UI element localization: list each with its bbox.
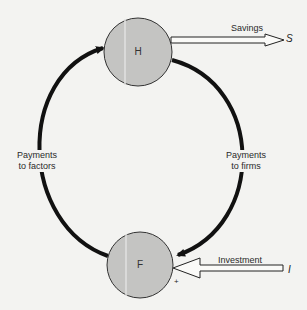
label-line: Payments xyxy=(12,150,62,161)
payments-to-factors-label: Payments to factors xyxy=(12,150,62,172)
savings-symbol: S xyxy=(286,33,293,44)
households-label: H xyxy=(128,46,148,57)
savings-arrow xyxy=(171,34,284,46)
label-line: to firms xyxy=(224,161,268,172)
injection-plus-sign: + xyxy=(174,277,179,286)
payments-to-firms-label: Payments to firms xyxy=(224,150,268,172)
firms-label: F xyxy=(130,259,150,270)
investment-label: Investment xyxy=(218,255,262,266)
label-line: to factors xyxy=(12,161,62,172)
investment-symbol: I xyxy=(288,264,291,275)
label-line: Payments xyxy=(224,150,268,161)
savings-label: Savings xyxy=(231,23,263,34)
circular-flow-diagram: H F Payments to factors Payments to firm… xyxy=(0,0,307,310)
